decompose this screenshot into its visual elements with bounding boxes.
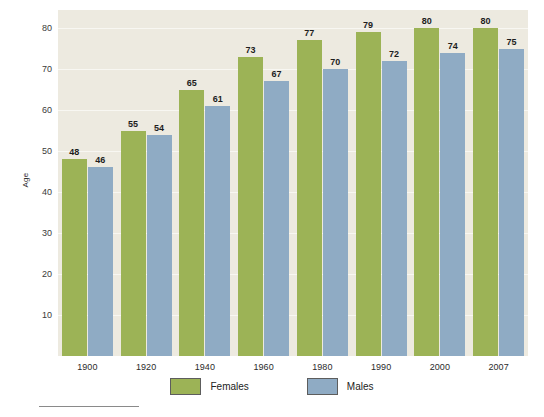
legend-item-males: Males <box>307 378 374 395</box>
x-axis-tick-label: 1990 <box>352 362 411 372</box>
chart-figure: Age 1020304050607080 4846555465617367777… <box>0 0 544 417</box>
legend-item-females: Females <box>170 378 248 395</box>
bar-value-label: 80 <box>473 17 498 26</box>
bar-males-1960 <box>264 81 289 356</box>
bar-females-2007 <box>473 28 498 356</box>
bar-females-1990 <box>356 32 381 356</box>
bar-value-label: 79 <box>356 21 381 30</box>
bar-males-1940 <box>205 106 230 356</box>
bar-females-1960 <box>238 57 263 356</box>
bar-males-1900 <box>88 167 113 356</box>
bar-males-2000 <box>440 53 465 356</box>
x-axis-tick-label: 1920 <box>117 362 176 372</box>
x-axis-tick-label: 1900 <box>58 362 117 372</box>
x-axis-tick-label: 1960 <box>234 362 293 372</box>
legend-label: Females <box>210 381 248 392</box>
bar-females-2000 <box>414 28 439 356</box>
bar-value-label: 65 <box>179 79 204 88</box>
bar-value-label: 72 <box>382 50 407 59</box>
bar-value-label: 77 <box>297 29 322 38</box>
chart-legend: FemalesMales <box>0 378 544 395</box>
y-axis-tick-label: 30 <box>24 229 52 238</box>
y-axis-tick-label: 70 <box>24 65 52 74</box>
plot-area: 48465554656173677770797280748075 <box>58 10 528 356</box>
x-axis-tick-label: 1980 <box>293 362 352 372</box>
y-axis-title: Age <box>21 160 30 200</box>
x-axis-tick-label: 1940 <box>176 362 235 372</box>
x-axis-tick-label: 2007 <box>469 362 528 372</box>
source-divider <box>39 406 139 407</box>
bar-males-1990 <box>382 61 407 356</box>
bar-females-1940 <box>179 90 204 357</box>
bar-males-1980 <box>323 69 348 356</box>
legend-label: Males <box>347 381 374 392</box>
bar-value-label: 70 <box>323 58 348 67</box>
bar-value-label: 54 <box>147 124 172 133</box>
bar-value-label: 73 <box>238 46 263 55</box>
bar-females-1920 <box>121 131 146 357</box>
legend-swatch-females <box>170 378 201 395</box>
y-axis-tick-label: 80 <box>24 24 52 33</box>
y-axis-tick-label: 10 <box>24 311 52 320</box>
bar-males-1920 <box>147 135 172 356</box>
y-axis-tick-label: 60 <box>24 106 52 115</box>
x-axis-tick-label: 2000 <box>411 362 470 372</box>
y-axis-tick-label: 50 <box>24 147 52 156</box>
bar-value-label: 80 <box>414 17 439 26</box>
bar-males-2007 <box>499 49 524 357</box>
bar-value-label: 74 <box>440 42 465 51</box>
bar-females-1980 <box>297 40 322 356</box>
bar-females-1900 <box>62 159 87 356</box>
bar-value-label: 61 <box>205 95 230 104</box>
gridline <box>58 28 528 29</box>
bar-value-label: 75 <box>499 38 524 47</box>
y-axis-tick-label: 20 <box>24 270 52 279</box>
bar-value-label: 46 <box>88 156 113 165</box>
legend-swatch-males <box>307 378 338 395</box>
bar-value-label: 48 <box>62 148 87 157</box>
bar-value-label: 67 <box>264 70 289 79</box>
bar-value-label: 55 <box>121 120 146 129</box>
